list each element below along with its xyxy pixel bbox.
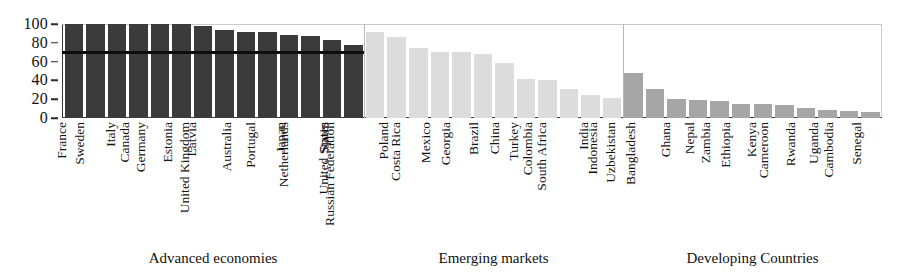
category-label: Ethiopia <box>719 122 733 168</box>
bar-slot <box>666 24 688 118</box>
bar[interactable] <box>387 37 406 118</box>
category-slot: Latvia <box>191 120 213 228</box>
category-label: Canada <box>117 122 131 162</box>
bar[interactable] <box>603 98 622 118</box>
bar[interactable] <box>775 105 794 118</box>
category-label: Cameroon <box>757 122 771 178</box>
bar[interactable] <box>581 95 600 118</box>
y-axis-tick-mark <box>51 23 58 25</box>
category-slot: United States <box>343 120 365 228</box>
bar[interactable] <box>818 110 837 118</box>
bar[interactable] <box>301 36 320 118</box>
bar-slot <box>278 24 300 118</box>
bar[interactable] <box>86 24 105 118</box>
bar[interactable] <box>689 100 708 118</box>
bar[interactable] <box>172 24 191 118</box>
bar-slot <box>300 24 322 118</box>
bar[interactable] <box>861 112 880 118</box>
bar-slot <box>494 24 516 118</box>
category-label: Nepal <box>682 122 696 154</box>
bar[interactable] <box>280 35 299 118</box>
bar-slot <box>795 24 817 118</box>
category-label: Uzbekistan <box>603 122 617 183</box>
bar[interactable] <box>215 30 234 118</box>
bar[interactable] <box>797 108 816 118</box>
bar-slot <box>85 24 107 118</box>
bar[interactable] <box>65 24 84 118</box>
category-label: Ghana <box>659 122 673 157</box>
bar-slot <box>192 24 214 118</box>
bar-slot <box>774 24 796 118</box>
bar-slot <box>106 24 128 118</box>
bar[interactable] <box>517 79 536 118</box>
bar[interactable] <box>732 104 751 118</box>
bar-slot <box>451 24 473 118</box>
bar[interactable] <box>409 48 428 118</box>
group-label-emerging: Emerging markets <box>364 248 623 270</box>
bar[interactable] <box>237 32 256 118</box>
y-axis-tick-mark <box>51 61 58 63</box>
y-axis-tick-label: 80 <box>32 35 48 51</box>
category-axis-labels: FranceSwedenItalyCanadaGermanyEstoniaLat… <box>62 120 882 228</box>
category-label: France <box>54 122 68 159</box>
category-slot: Senegal <box>860 120 882 228</box>
bar-slot <box>644 24 666 118</box>
bar[interactable] <box>495 63 514 118</box>
bar[interactable] <box>710 101 729 118</box>
bar[interactable] <box>129 24 148 118</box>
bar-slot <box>860 24 882 118</box>
group-labels: Advanced economiesEmerging marketsDevelo… <box>62 248 882 270</box>
bar[interactable] <box>646 89 665 118</box>
y-axis-tick-mark <box>51 117 58 119</box>
category-label: Indonesia <box>586 122 600 174</box>
bar-slot <box>730 24 752 118</box>
group-label-advanced: Advanced economies <box>62 248 364 270</box>
category-label: Australia <box>221 122 235 172</box>
category-label: Bangladesh <box>624 122 638 185</box>
bar[interactable] <box>474 54 493 118</box>
category-label: Turkey <box>507 122 521 161</box>
bar[interactable] <box>344 45 363 118</box>
y-axis-tick-label: 20 <box>32 91 48 107</box>
reference-line <box>62 51 364 54</box>
bar-slot <box>687 24 709 118</box>
category-label: Brazil <box>466 122 480 155</box>
bar[interactable] <box>258 32 277 118</box>
bar[interactable] <box>151 24 170 118</box>
bar[interactable] <box>108 24 127 118</box>
y-axis: 020406080100 <box>0 18 62 124</box>
bar[interactable] <box>560 89 579 118</box>
group-separator <box>364 24 365 118</box>
category-label: Senegal <box>850 122 864 165</box>
bar[interactable] <box>431 52 450 118</box>
bar[interactable] <box>538 80 557 118</box>
bar[interactable] <box>194 26 213 118</box>
bar[interactable] <box>754 104 773 118</box>
bar-slot <box>408 24 430 118</box>
bar-slot <box>386 24 408 118</box>
bar-slot <box>558 24 580 118</box>
category-label: China <box>488 122 502 154</box>
bar[interactable] <box>366 32 385 118</box>
y-axis-tick-label: 60 <box>32 54 48 70</box>
category-label: Sweden <box>73 122 87 165</box>
bar-slot <box>257 24 279 118</box>
y-axis-tick-mark <box>51 98 58 100</box>
bar[interactable] <box>452 52 471 118</box>
category-label: Zambia <box>700 122 714 163</box>
bar-slot <box>63 24 85 118</box>
category-label: Portugal <box>244 122 258 168</box>
bar[interactable] <box>624 73 643 118</box>
bar[interactable] <box>840 111 859 118</box>
y-axis-tick-mark <box>51 42 58 44</box>
group-label-developing: Developing Countries <box>623 248 882 270</box>
bar-series <box>62 24 882 118</box>
bar-slot <box>149 24 171 118</box>
bar-chart-figure: 020406080100 FranceSwedenItalyCanadaGerm… <box>0 0 909 276</box>
category-label: Estonia <box>160 122 174 163</box>
bar-slot <box>343 24 365 118</box>
group-separator <box>623 24 624 118</box>
bar-slot <box>580 24 602 118</box>
bar-slot <box>623 24 645 118</box>
bar[interactable] <box>667 99 686 118</box>
